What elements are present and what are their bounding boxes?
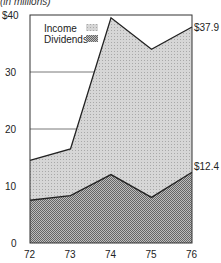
y-axis-ticks: 0102030$40 [2,10,19,249]
x-tick-label: 75 [146,249,158,260]
legend-income-swatch [86,24,98,31]
x-axis-ticks: 7273747576 [24,249,198,260]
legend: IncomeDividends [44,23,98,45]
y-tick-label: 10 [5,181,17,192]
income-end-label: $37.9 [194,22,219,33]
areas [30,18,192,243]
legend-dividends-swatch [86,35,98,42]
y-tick-label: 30 [5,67,17,78]
x-tick-label: 76 [186,249,198,260]
end-labels: $37.9$12.4 [194,22,219,172]
legend-dividends-label: Dividends [44,34,88,45]
y-tick-label: 20 [5,124,17,135]
area-chart: 0102030$40 7273747576 IncomeDividends $3… [0,0,221,263]
x-tick-label: 72 [24,249,36,260]
dividends-end-label: $12.4 [194,161,219,172]
x-tick-label: 73 [65,249,77,260]
y-tick-label: $40 [2,10,19,21]
legend-income-label: Income [44,23,77,34]
y-tick-label: 0 [11,238,17,249]
x-tick-label: 74 [105,249,117,260]
